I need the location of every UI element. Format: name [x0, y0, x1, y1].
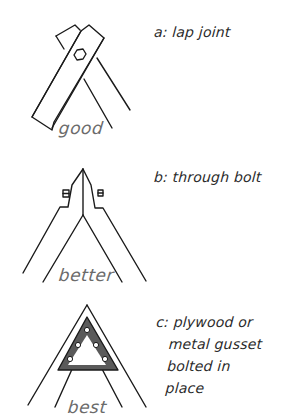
caption-line: a: lap joint [153, 21, 231, 43]
bolt-hole-icon [67, 356, 72, 361]
bolt-head-left-icon [63, 190, 69, 197]
caption-line: metal gusset [154, 333, 263, 355]
caption-line: b: through bolt [153, 166, 262, 188]
panel-lap-joint: good a: lap joint [0, 0, 297, 145]
bolt-hole-icon [93, 342, 98, 347]
rating-better: better [58, 265, 115, 285]
bolt-head-right-icon [98, 190, 103, 196]
panel-gusset: best c: plywood or metal gusset bolted i… [0, 295, 297, 420]
caption-line: place [151, 377, 260, 399]
rating-good: good [58, 118, 104, 138]
bolt-hole-icon [75, 342, 80, 347]
caption-line: bolted in [152, 355, 261, 377]
caption-gusset: c: plywood or metal gusset bolted in pla… [151, 311, 265, 399]
panel-through-bolt: better b: through bolt [0, 145, 297, 295]
caption-through-bolt: b: through bolt [153, 166, 262, 188]
right-rafter [32, 25, 104, 130]
rating-best: best [67, 397, 108, 417]
caption-lap-joint: a: lap joint [153, 21, 231, 43]
bolt-hole-icon [102, 356, 107, 361]
bolt-hole-icon [84, 327, 89, 332]
caption-line: c: plywood or [156, 311, 265, 333]
